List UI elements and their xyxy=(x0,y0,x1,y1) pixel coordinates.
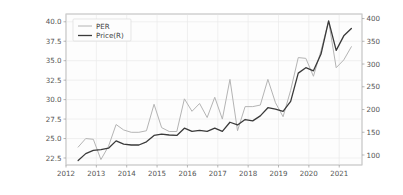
y-axis-left-tick-label: 27.5 xyxy=(46,115,62,124)
x-axis-tick-label: 2014 xyxy=(118,169,137,178)
y-axis-right-tick-label: 200 xyxy=(367,105,381,114)
x-axis-tick-label: 2016 xyxy=(178,169,197,178)
y-axis-left-tick-label: 40.0 xyxy=(46,17,62,26)
notebook-output-cell: Out 22.525.027.530.032.535.037.540.01001… xyxy=(0,0,403,195)
legend-label-per: PER xyxy=(96,22,110,31)
line-chart: 22.525.027.530.032.535.037.540.010015020… xyxy=(0,3,403,193)
y-axis-left-tick-label: 32.5 xyxy=(46,76,62,85)
y-axis-right-tick-label: 250 xyxy=(367,82,381,91)
x-axis-tick-label: 2019 xyxy=(269,169,288,178)
x-axis-tick-label: 2015 xyxy=(148,169,166,178)
x-axis-tick-label: 2012 xyxy=(57,169,75,178)
y-axis-left-tick-label: 22.5 xyxy=(46,154,62,163)
y-axis-left-tick-label: 35.0 xyxy=(46,56,62,65)
y-axis-right-tick-label: 300 xyxy=(367,60,381,69)
y-axis-right-tick-label: 350 xyxy=(367,37,381,46)
y-axis-left-tick-label: 30.0 xyxy=(46,95,62,104)
y-axis-right-tick-label: 150 xyxy=(367,128,381,137)
chart-figure: 22.525.027.530.032.535.037.540.010015020… xyxy=(0,3,403,193)
x-axis-tick-label: 2017 xyxy=(209,169,227,178)
y-axis-left-tick-label: 37.5 xyxy=(46,37,62,46)
x-axis-tick-label: 2020 xyxy=(300,169,319,178)
y-axis-right-tick-label: 100 xyxy=(367,151,381,160)
y-axis-left-tick-label: 25.0 xyxy=(46,134,62,143)
legend-label-price-r: Price(R) xyxy=(96,31,124,40)
x-axis-tick-label: 2013 xyxy=(87,169,105,178)
x-axis-tick-label: 2021 xyxy=(330,169,348,178)
x-axis-tick-label: 2018 xyxy=(239,169,258,178)
y-axis-right-tick-label: 400 xyxy=(367,14,381,23)
